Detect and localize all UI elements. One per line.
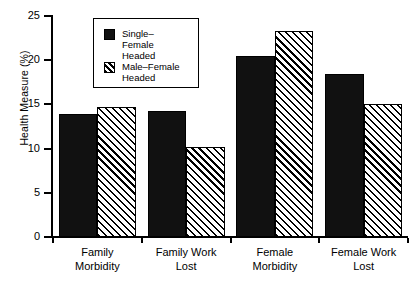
bar-chart: Health Measure (%) 0510152025 FamilyMorb… (0, 0, 420, 281)
category-label-line: Lost (142, 260, 231, 274)
x-axis-category-label: Family WorkLost (142, 246, 231, 273)
category-label-line: Family Work (142, 246, 231, 260)
legend-label-line: Female (122, 39, 155, 50)
legend-item-male-female-headed: Male–Female Headed (104, 61, 180, 83)
legend-label-line: Headed (122, 72, 180, 83)
legend-item-single-female-headed: Single– Female Headed (104, 28, 155, 62)
legend-label-single-female-headed: Single– Female Headed (122, 28, 155, 62)
category-label-line: Female (231, 246, 320, 260)
bar (236, 56, 275, 237)
bar (97, 107, 136, 237)
bars-layer (0, 0, 420, 281)
bar (148, 111, 187, 237)
category-label-line: Morbidity (231, 260, 320, 274)
legend-label-male-female-headed: Male–Female Headed (122, 61, 180, 83)
legend-label-line: Male–Female (122, 61, 180, 72)
legend-label-line: Single– (122, 28, 155, 39)
bar (275, 31, 314, 237)
bar (186, 147, 225, 237)
x-axis-category-label: FamilyMorbidity (53, 246, 142, 273)
legend-swatch-solid-icon (104, 29, 115, 40)
legend-swatch-hatch-icon (104, 62, 115, 73)
x-axis-category-label: Female WorkLost (319, 246, 408, 273)
x-axis-category-label: FemaleMorbidity (231, 246, 320, 273)
legend-label-line: Headed (122, 50, 155, 61)
bar (325, 74, 364, 237)
category-label-line: Morbidity (53, 260, 142, 274)
category-label-line: Female Work (319, 246, 408, 260)
bar (59, 114, 98, 237)
category-label-line: Family (53, 246, 142, 260)
legend: Single– Female Headed Male–Female Headed (93, 18, 199, 88)
bar (364, 104, 403, 237)
category-label-line: Lost (319, 260, 408, 274)
